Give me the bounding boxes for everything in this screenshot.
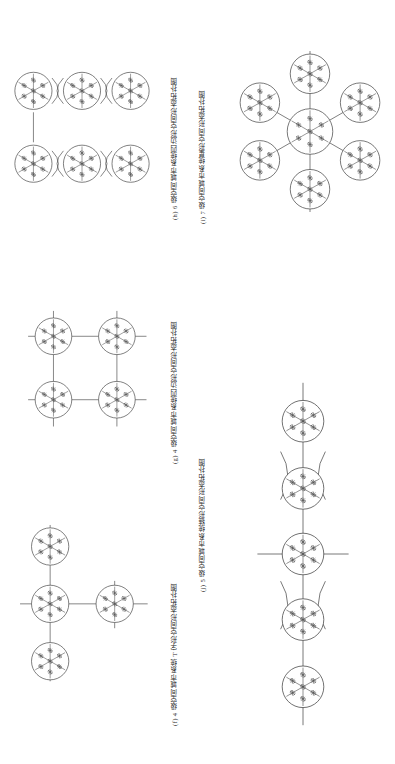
edge-lens [106, 151, 112, 177]
edge-lens [52, 78, 58, 104]
edge-lens [57, 78, 63, 104]
node-group-h [15, 72, 149, 182]
node-group-i [240, 54, 380, 209]
panel-g-svg [14, 288, 162, 448]
caption-h: (h) 6 级空间城市系统四边形空间形态拓扑图 [172, 34, 179, 220]
panel-f-diagram [10, 506, 162, 706]
panel-f-svg [10, 506, 162, 706]
edge-lens [101, 78, 107, 104]
figure-sheet: (h) 6 级空间城市系统四边形空间形态拓扑图 (g) 4 级空间城市系统四边形… [0, 0, 395, 764]
edge-lens [106, 78, 112, 104]
caption-g: (g) 4 级空间城市系统四边形空间形态拓扑图 [172, 272, 179, 464]
panel-j-diagram [243, 370, 363, 738]
edge-lens [52, 151, 58, 177]
panel-h-diagram [2, 38, 162, 218]
edge-lens [101, 151, 107, 177]
caption-f: (f) 4 级空间城市系统 T 字形空间形态拓扑图 [172, 520, 179, 726]
panel-h-svg [2, 38, 162, 218]
panel-j-svg [243, 370, 363, 738]
panel-i-diagram [228, 40, 392, 220]
caption-i: (i) 7 级空间城市系统星形空间形态拓扑图 [200, 34, 207, 224]
node-group-g [35, 318, 135, 418]
panel-i-svg [228, 40, 392, 220]
edge-lens [57, 151, 63, 177]
panel-g-diagram [14, 288, 162, 448]
caption-j: (j) 5 级空间城市系统链形空间形态拓扑图 [200, 392, 207, 592]
